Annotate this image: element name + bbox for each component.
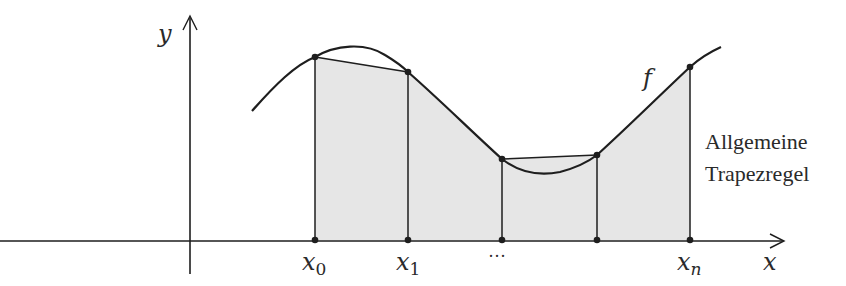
trapezoid-1 bbox=[315, 57, 408, 240]
title-line-1: Allgemeine bbox=[705, 129, 808, 154]
curve-point-x3 bbox=[594, 152, 601, 159]
curve-point-xn bbox=[687, 64, 694, 71]
curve-point-x0 bbox=[312, 54, 319, 61]
title-line-2: Trapezregel bbox=[705, 161, 809, 186]
axis-point-x3 bbox=[594, 237, 601, 244]
function-label: f bbox=[641, 64, 656, 92]
x-axis-label: x bbox=[763, 248, 777, 276]
area-segment-2 bbox=[408, 72, 502, 240]
node-label-ellipsis: ··· bbox=[488, 246, 506, 266]
area-segment-4 bbox=[597, 67, 690, 240]
curve-point-x1 bbox=[405, 69, 412, 76]
curve-point-x2 bbox=[499, 156, 506, 163]
node-label-xn: xn bbox=[677, 248, 702, 279]
trapezoid-rule-diagram: y x f x0 x1 ··· xn Allgemeine Trapezrege… bbox=[0, 0, 846, 286]
axis-point-x0 bbox=[312, 237, 319, 244]
node-label-x0: x0 bbox=[302, 248, 326, 279]
axis-point-xn bbox=[687, 237, 694, 244]
node-label-x1: x1 bbox=[396, 248, 420, 279]
axis-point-x1 bbox=[405, 237, 412, 244]
axis-point-x2 bbox=[499, 237, 506, 244]
y-axis-label: y bbox=[157, 20, 172, 48]
